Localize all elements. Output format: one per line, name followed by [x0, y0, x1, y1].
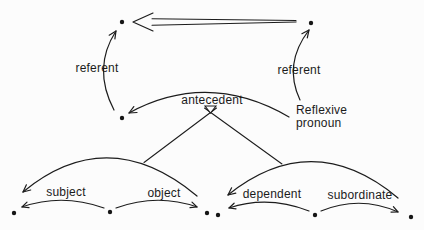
identity-arrow-lower-line — [152, 22, 296, 25]
referent-dot-right — [309, 21, 313, 25]
dependent-label: dependent — [243, 187, 302, 201]
subject-arc — [22, 200, 104, 208]
dependent-arc — [229, 202, 309, 211]
left-group-left-dot — [12, 211, 16, 215]
left-group-center-dot — [108, 210, 112, 214]
subordinate-arc — [321, 203, 398, 212]
subordinate-label: subordinate — [328, 188, 393, 202]
antecedent-label: antecedent — [181, 93, 243, 107]
branch-line-right — [205, 108, 283, 164]
identity-arrow — [133, 13, 296, 31]
reflexive-pronoun-label-line2: pronoun — [296, 116, 341, 130]
subject-label: subject — [46, 185, 86, 199]
reflexive-pronoun-diagram: referent referent antecedent Reflexive p… — [0, 0, 424, 230]
referent-label-left: referent — [76, 61, 119, 75]
right-group-right-dot — [409, 215, 413, 219]
object-label: object — [147, 186, 181, 200]
diagram-page: referent referent antecedent Reflexive p… — [0, 0, 424, 230]
right-group-center-dot — [313, 213, 317, 217]
antecedent-dot — [120, 116, 124, 120]
identity-arrow-upper-line — [152, 19, 296, 21]
left-group-right-dot — [205, 211, 209, 215]
referent-dot-left — [120, 20, 124, 24]
branch-line-left — [144, 108, 217, 163]
identity-arrowhead — [133, 13, 153, 31]
right-group-left-dot — [216, 213, 220, 217]
referent-label-right: referent — [278, 63, 321, 77]
object-arc — [116, 200, 197, 208]
reflexive-pronoun-label-line1: Reflexive — [296, 103, 347, 117]
